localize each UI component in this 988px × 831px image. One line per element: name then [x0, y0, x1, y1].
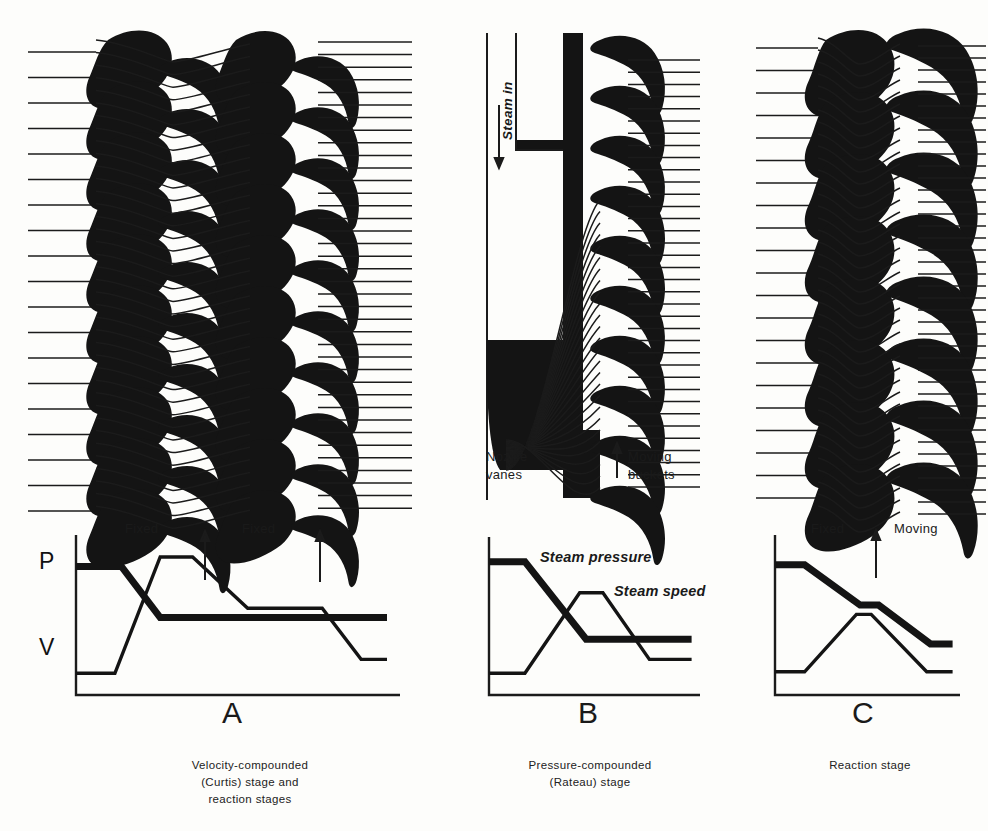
caption-b-line2: (Rateau) stage: [465, 774, 715, 791]
caption-b-line1: Pressure-compounded: [465, 757, 715, 774]
turbine-figure: P V Fixed Fixed Fixed Moving Steam press…: [0, 0, 988, 831]
moving-buckets-arrow: [613, 443, 621, 478]
nozzle-vanes-label: Nozzle vanes: [486, 448, 528, 484]
steam-in-arrow-layer: [0, 0, 988, 831]
moving-buckets-line2: buckets: [628, 466, 675, 484]
nozzle-vanes-line1: Nozzle: [486, 448, 528, 466]
nozzle-vanes-line2: vanes: [486, 466, 528, 484]
caption-a-line3: reaction stages: [110, 791, 390, 808]
steam-in-arrow: [495, 105, 503, 168]
caption-a-line2: (Curtis) stage and: [110, 774, 390, 791]
caption-a: Velocity-compounded (Curtis) stage and r…: [110, 757, 390, 808]
moving-buckets-line1: Moving: [628, 448, 675, 466]
caption-b: Pressure-compounded (Rateau) stage: [465, 757, 715, 791]
panel-letter-c: C: [852, 696, 874, 730]
caption-c-line1: Reaction stage: [770, 757, 970, 774]
panel-letter-a: A: [222, 696, 242, 730]
moving-buckets-label: Moving buckets: [628, 448, 675, 484]
panel-letter-b: B: [578, 696, 598, 730]
caption-c: Reaction stage: [770, 757, 970, 774]
caption-a-line1: Velocity-compounded: [110, 757, 390, 774]
